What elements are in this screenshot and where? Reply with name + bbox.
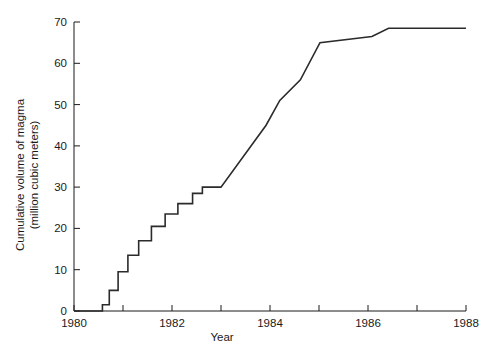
x-axis-ticks: 1980 1982 1984 1986 1988 — [61, 305, 479, 329]
y-tick-label-60: 60 — [54, 57, 67, 69]
cumulative-magma-volume-chart: Cumulative volume of magma (million cubi… — [0, 0, 500, 349]
x-tick-label-1980: 1980 — [61, 317, 87, 329]
x-axis-title: Year — [210, 331, 233, 343]
y-tick-label-20: 20 — [54, 222, 67, 234]
y-axis-ticks: 0 10 20 30 40 50 60 70 — [54, 16, 80, 317]
y-tick-label-30: 30 — [54, 181, 67, 193]
data-series-cumulative-magma-volume — [74, 28, 466, 311]
x-tick-label-1988: 1988 — [453, 317, 479, 329]
chart-figure: Cumulative volume of magma (million cubi… — [0, 0, 500, 349]
y-tick-label-50: 50 — [54, 99, 67, 111]
y-axis-title-line1: Cumulative volume of magma — [14, 98, 26, 251]
y-tick-label-40: 40 — [54, 140, 67, 152]
x-tick-label-1982: 1982 — [159, 317, 185, 329]
y-axis-title-line2: (million cubic meters) — [28, 121, 40, 230]
y-tick-label-0: 0 — [61, 305, 67, 317]
y-axis-title: Cumulative volume of magma (million cubi… — [14, 98, 40, 251]
y-tick-label-70: 70 — [54, 16, 67, 28]
x-tick-label-1986: 1986 — [355, 317, 381, 329]
x-tick-label-1984: 1984 — [257, 317, 283, 329]
y-tick-label-10: 10 — [54, 264, 67, 276]
